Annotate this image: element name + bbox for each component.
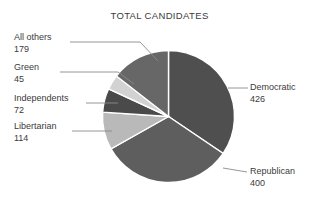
slice-label-all-others: All others 179 [14, 32, 52, 55]
slice-label-republican: Republican 400 [250, 166, 295, 189]
slice-label-independents: Independents 72 [14, 93, 69, 116]
slice-label-all-others-value: 179 [14, 44, 52, 56]
slice-label-democratic-value: 426 [250, 94, 296, 106]
slice-label-green-name: Green [14, 62, 39, 74]
slice-label-green: Green 45 [14, 62, 39, 85]
slice-label-republican-value: 400 [250, 178, 295, 190]
slice-label-independents-value: 72 [14, 105, 69, 117]
slice-label-democratic: Democratic 426 [250, 82, 296, 105]
slice-label-libertarian: Libertarian 114 [14, 121, 57, 144]
slice-label-libertarian-value: 114 [14, 133, 57, 145]
slice-label-green-value: 45 [14, 74, 39, 86]
slice-label-libertarian-name: Libertarian [14, 121, 57, 133]
slice-label-all-others-name: All others [14, 32, 52, 44]
slice-label-independents-name: Independents [14, 93, 69, 105]
leader-line-republican [223, 168, 247, 172]
slice-label-republican-name: Republican [250, 166, 295, 178]
pie-slice-group [102, 51, 234, 183]
pie-chart-figure: TOTAL CANDIDATES All others 179 Green 45… [0, 0, 319, 200]
slice-label-democratic-name: Democratic [250, 82, 296, 94]
